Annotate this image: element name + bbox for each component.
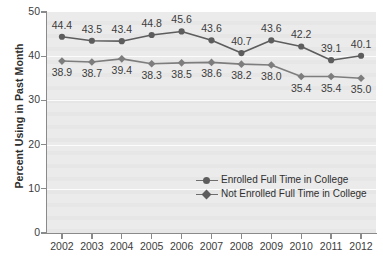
data-point-diamond-icon — [148, 60, 156, 68]
data-point-circle-icon — [89, 38, 95, 44]
data-point-circle-icon — [238, 50, 244, 56]
legend-item-label: Enrolled Full Time in College — [218, 173, 348, 187]
data-point-diamond-icon — [178, 59, 186, 67]
legend-item-not-enrolled[interactable]: Not Enrolled Full Time in College — [196, 187, 372, 201]
data-point-circle-icon — [149, 32, 155, 38]
line-chart-figure: Percent Using in Past Month 01020304050 … — [0, 0, 383, 265]
data-point-diamond-icon — [88, 58, 96, 66]
data-point-circle-icon — [298, 43, 304, 49]
data-point-diamond-icon — [58, 57, 66, 65]
data-point-circle-icon — [328, 57, 334, 63]
data-point-diamond-icon — [118, 55, 126, 63]
legend-circle-marker-icon — [196, 174, 218, 186]
data-point-diamond-icon — [357, 74, 365, 82]
data-point-diamond-icon — [238, 60, 246, 68]
legend-item-enrolled[interactable]: Enrolled Full Time in College — [196, 173, 372, 187]
legend-item-label: Not Enrolled Full Time in College — [218, 187, 367, 201]
data-point-circle-icon — [59, 34, 65, 40]
data-point-circle-icon — [268, 37, 274, 43]
chart-legend: Enrolled Full Time in College Not Enroll… — [196, 173, 372, 201]
data-point-diamond-icon — [327, 73, 335, 81]
data-point-circle-icon — [119, 38, 125, 44]
data-point-circle-icon — [178, 28, 184, 34]
data-point-circle-icon — [358, 53, 364, 59]
data-point-diamond-icon — [208, 59, 216, 67]
series-lines — [0, 0, 383, 265]
data-point-diamond-icon — [268, 61, 276, 69]
series-line-1 — [62, 31, 361, 60]
data-point-circle-icon — [208, 37, 214, 43]
legend-diamond-marker-icon — [196, 188, 218, 200]
data-point-diamond-icon — [297, 73, 305, 81]
